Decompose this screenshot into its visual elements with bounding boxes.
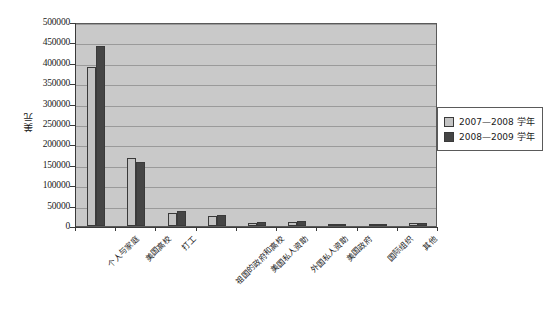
x-axis-tick [155,227,156,231]
bar [177,211,186,226]
x-axis-category-label: 国际组织 [384,233,414,263]
bar [288,222,297,226]
legend-label: 2008—2009 学年 [459,130,535,143]
bar [136,162,145,226]
bar [328,224,337,226]
y-axis-tick-label: 200000 [43,139,70,149]
bar [257,222,266,226]
legend-item: 2008—2009 学年 [444,130,535,143]
legend-swatch-icon [444,132,454,142]
x-axis-tick [437,227,438,231]
bar [248,223,257,226]
x-axis-category-label: 美国政府 [344,233,374,263]
bar-group [398,24,438,226]
bar [409,223,418,226]
bar [297,221,306,226]
bar-group [156,24,196,226]
legend-swatch-icon [444,117,454,127]
y-axis-tick-label: 250000 [43,119,70,129]
x-axis-tick [316,227,317,231]
x-axis-tick [75,227,76,231]
x-axis-tick [236,227,237,231]
y-axis-tick-label: 400000 [43,58,70,68]
bars-layer [76,24,436,226]
y-axis-tick-label: 450000 [43,37,70,47]
bar [168,213,177,226]
y-axis-title: 美元 [22,112,36,132]
legend-label: 2007—2008 学年 [459,115,535,128]
bar [208,216,217,226]
y-axis-tick-label: 100000 [43,180,70,190]
x-axis-tick [397,227,398,231]
bar-group [358,24,398,226]
bar [96,46,105,226]
bar-group [317,24,357,226]
x-axis-line [75,227,437,228]
x-axis-category-label: 个人与家庭 [105,233,141,269]
bar-group [197,24,237,226]
x-axis-tick [357,227,358,231]
chart-legend: 2007—2008 学年 2008—2009 学年 [437,107,543,151]
x-axis-category-label: 打工 [178,233,197,252]
bar [378,224,387,226]
bar [127,158,136,226]
y-axis-tick-label: 50000 [47,201,70,211]
y-axis-tick-label: 300000 [43,99,70,109]
y-axis-tick-label: 0 [65,221,70,231]
bar [337,224,346,226]
bar-group [237,24,277,226]
bar-group [116,24,156,226]
bar-chart: 美元 5000004500004000003500003000002500002… [0,0,559,316]
x-axis-tick [276,227,277,231]
plot-area [75,23,437,227]
x-axis-category-label: 美国高校 [143,233,173,263]
y-axis-line [75,23,76,228]
x-axis-tick [115,227,116,231]
x-axis-category-label: 其他 [420,233,439,252]
y-axis-tick-label: 350000 [43,78,70,88]
y-axis-tick-label: 150000 [43,160,70,170]
legend-item: 2007—2008 学年 [444,115,535,128]
bar [369,224,378,226]
bar [87,67,96,226]
x-axis-tick [196,227,197,231]
bar [418,223,427,226]
bar-group [277,24,317,226]
y-axis-tick-label: 500000 [43,17,70,27]
bar-group [76,24,116,226]
bar [217,215,226,226]
